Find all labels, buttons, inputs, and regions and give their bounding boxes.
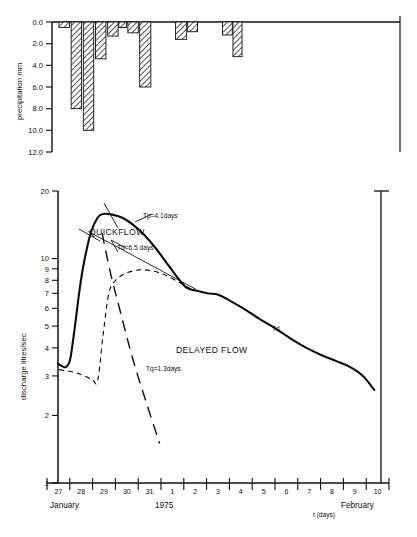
- discharge-curves: [58, 214, 374, 444]
- month-february-label: February: [341, 501, 375, 510]
- x-axis-ticklabel: 1: [170, 488, 174, 495]
- precipitation-bar: [233, 22, 242, 57]
- x-axis-ticklabels: 272829303112345678910: [55, 488, 382, 495]
- discharge-ytick-label: 20: [41, 187, 49, 196]
- precipitation-bars: [59, 22, 242, 130]
- x-axis-ticklabel: 27: [55, 488, 63, 495]
- precip-ytick-4: 8.0: [32, 104, 43, 113]
- precipitation-bar: [59, 22, 69, 27]
- discharge-series-td-recession-line: [88, 232, 195, 290]
- x-axis-title: t (days): [313, 511, 335, 519]
- tp-label: Tp=4.1days: [143, 212, 178, 220]
- precip-ytick-0: 0.0: [32, 18, 43, 27]
- discharge-ytick-label: 2: [45, 411, 49, 420]
- precipitation-bar: [83, 22, 93, 130]
- discharge-ytick-label: 3: [45, 372, 49, 381]
- precipitation-bar: [176, 22, 187, 39]
- precipitation-bar: [128, 22, 138, 33]
- x-axis-ticklabel: 30: [123, 488, 131, 495]
- precipitation-bar: [108, 22, 118, 36]
- delayed-flow-label: DELAYED FLOW: [176, 345, 248, 355]
- figure-canvas: 0.0 2.0 4.0 6.0 8.0 10.0 12.0 precipitat…: [0, 0, 417, 537]
- discharge-ytick-label: 4: [45, 344, 49, 353]
- discharge-ytick-label: 7: [45, 289, 49, 298]
- precip-ytick-2: 4.0: [32, 61, 43, 70]
- x-axis-ticklabel: 3: [216, 488, 220, 495]
- discharge-ytick-label: 6: [45, 304, 49, 313]
- discharge-ytick-label: 10: [41, 254, 49, 263]
- precip-axis-title: precipitation mm: [15, 63, 24, 120]
- discharge-axis-title: discharge litres/sec: [19, 333, 28, 400]
- discharge-ytick-label: 5: [45, 322, 49, 331]
- x-axis-ticklabel: 6: [284, 488, 288, 495]
- x-axis: 272829303112345678910 January 1975 Febru…: [47, 478, 389, 519]
- tq-label: Tq=1.3days: [146, 365, 181, 373]
- precip-y-ticklabels: 0.0 2.0 4.0 6.0 8.0 10.0 12.0: [28, 18, 43, 157]
- precip-y-ticks: [46, 22, 52, 152]
- discharge-ytick-label: 8: [45, 276, 49, 285]
- precipitation-panel: 0.0 2.0 4.0 6.0 8.0 10.0 12.0 precipitat…: [15, 16, 400, 157]
- quickflow-label: QUICKFLOW: [89, 227, 145, 237]
- td-curve-label: Td: [272, 325, 280, 332]
- discharge-panel: 2010987654321 discharge litres/sec QUICK…: [19, 187, 389, 488]
- year-label: 1975: [155, 501, 174, 510]
- x-axis-ticklabel: 4: [239, 488, 243, 495]
- x-axis-ticklabel: 8: [330, 488, 334, 495]
- precip-ytick-6: 12.0: [28, 148, 43, 157]
- precip-ytick-3: 6.0: [32, 83, 43, 92]
- precip-ytick-5: 10.0: [28, 126, 43, 135]
- x-axis-ticklabel: 5: [262, 488, 266, 495]
- x-axis-ticklabel: 2: [193, 488, 197, 495]
- discharge-ytick-label: 9: [45, 265, 49, 274]
- precipitation-bar: [119, 22, 127, 27]
- precip-ytick-1: 2.0: [32, 39, 43, 48]
- discharge-series-quickflow-recession: [102, 233, 160, 443]
- hydrograph-figure: 0.0 2.0 4.0 6.0 8.0 10.0 12.0 precipitat…: [0, 0, 417, 537]
- precipitation-bar: [140, 22, 151, 87]
- x-axis-ticklabel: 9: [353, 488, 357, 495]
- precipitation-bar: [96, 22, 106, 59]
- x-axis-ticklabel: 10: [374, 488, 382, 495]
- precipitation-bar: [188, 22, 198, 32]
- td-time-label: Td=6.5 days: [117, 244, 154, 252]
- x-axis-ticklabel: 31: [146, 488, 154, 495]
- month-january-label: January: [50, 501, 80, 510]
- precipitation-bar: [71, 22, 81, 109]
- discharge-y-ticks: 2010987654321: [41, 187, 58, 488]
- x-axis-ticklabel: 7: [307, 488, 311, 495]
- x-axis-ticklabel: 29: [100, 488, 108, 495]
- x-axis-ticklabel: 28: [77, 488, 85, 495]
- precipitation-bar: [223, 22, 233, 35]
